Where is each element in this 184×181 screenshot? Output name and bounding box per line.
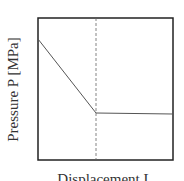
x-axis-label: Displacement L — [40, 171, 170, 181]
plot-frame — [38, 18, 173, 160]
chart-plot — [0, 0, 184, 181]
y-axis-label: Pressure P [MPa] — [5, 35, 22, 145]
pressure-line — [38, 39, 173, 114]
